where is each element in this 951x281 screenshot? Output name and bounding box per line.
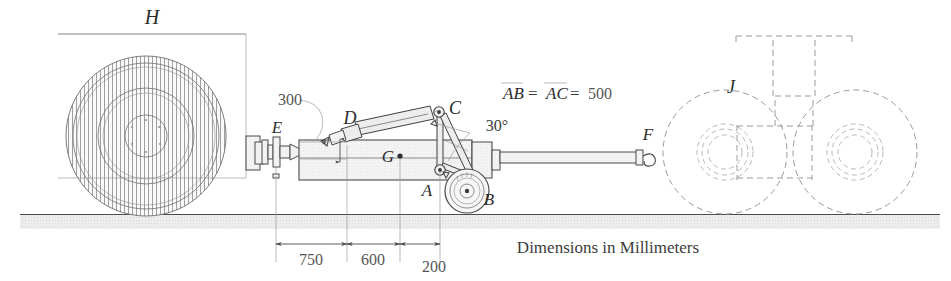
note-eq1: = [528,84,538,103]
ground-surface [20,215,940,230]
label-H: H [144,6,161,28]
label-C: C [449,98,462,118]
label-D: D [343,108,357,128]
note-500-value: 500 [588,85,612,102]
note-ac-text: AC [545,84,568,103]
label-B: B [484,190,495,209]
label-angle-30deg: 30° [486,117,508,134]
diagram-canvas: H E D C A G B F J 30° 300 750 600 200 AB… [0,0,951,281]
dimension-label-600: 600 [361,251,385,268]
label-J: J [727,77,736,97]
hitch-assembly-E [262,137,300,178]
note-eq2: = [570,84,580,103]
label-F: F [642,125,654,144]
pivot-joint-C [434,107,444,117]
large-wheel-H [66,56,226,216]
tow-bar [500,150,655,166]
label-G: G [382,147,394,166]
center-of-mass-G [397,153,402,158]
figure-caption: Dimensions in Millimeters [517,238,699,257]
dimension-label-200: 200 [422,258,446,275]
label-A: A [421,181,433,200]
roller-wheel-B [445,169,489,213]
label-E: E [271,118,283,137]
note-ab-ac-500: AB = AC = 500 [501,83,612,103]
dimension-label-300: 300 [278,91,302,108]
engineering-diagram-figure: H E D C A G B F J 30° 300 750 600 200 AB… [0,0,951,281]
truck-J-dashed [663,36,917,214]
dimension-label-750: 750 [299,251,323,268]
note-ab-text: AB [502,84,524,103]
